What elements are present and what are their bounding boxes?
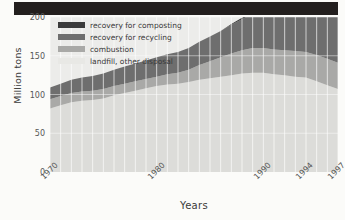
x-tick-1970: 1970	[39, 161, 60, 182]
legend-swatch-combustion	[58, 46, 85, 52]
legend-label-recycling: recovery for recycling	[90, 33, 172, 42]
x-tick-1990: 1990	[252, 161, 273, 182]
chart-figure: Million tons 0 50 100 150 200 1970 1980 …	[0, 0, 345, 220]
legend-item-landfill: landfill, other disposal	[58, 56, 182, 66]
x-tick-1980: 1980	[146, 161, 167, 182]
x-axis-title: Years	[50, 200, 338, 211]
legend-label-landfill: landfill, other disposal	[90, 57, 173, 66]
legend-item-recycling: recovery for recycling	[58, 32, 182, 42]
x-tick-1994: 1994	[294, 161, 315, 182]
legend-swatch-recycling	[58, 34, 85, 40]
legend: recovery for composting recovery for rec…	[58, 20, 182, 68]
legend-item-composting: recovery for composting	[58, 20, 182, 30]
legend-label-composting: recovery for composting	[90, 21, 182, 30]
legend-label-combustion: combustion	[90, 45, 134, 54]
legend-swatch-landfill	[58, 58, 85, 64]
legend-swatch-composting	[58, 22, 85, 28]
x-tick-1997: 1997	[326, 161, 345, 182]
legend-item-combustion: combustion	[58, 44, 182, 54]
